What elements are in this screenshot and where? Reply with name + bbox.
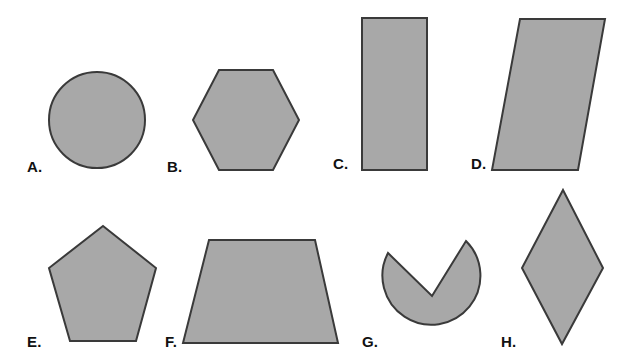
shape-label-b: B.	[167, 159, 182, 174]
shapes-figure: A.B.C.D.E.F.G.H.	[0, 0, 635, 360]
shape-c-rectangle	[362, 18, 427, 170]
shape-label-f: F.	[165, 334, 177, 349]
shape-a-circle	[49, 72, 145, 168]
shapes-canvas	[0, 0, 635, 360]
shape-label-d: D.	[471, 156, 486, 171]
shape-label-h: H.	[501, 334, 516, 349]
shape-label-g: G.	[362, 334, 378, 349]
shape-label-a: A.	[27, 159, 42, 174]
shape-f-trapezoid	[183, 240, 338, 343]
shape-label-c: C.	[333, 156, 348, 171]
shape-label-e: E.	[27, 334, 42, 349]
